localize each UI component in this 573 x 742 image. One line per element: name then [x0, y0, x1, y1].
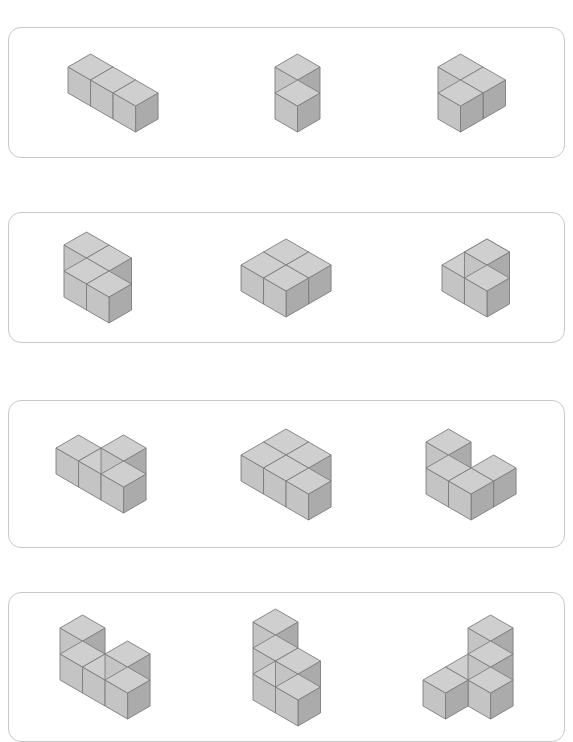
row-of-three-with-tower[interactable] — [54, 433, 148, 515]
tower-with-foot[interactable] — [421, 613, 515, 721]
figure-panel-4 — [8, 592, 565, 742]
figure-row — [9, 401, 564, 547]
figure-panel-1 — [8, 27, 565, 158]
figure-panel-2 — [8, 212, 565, 343]
cube-structure-svg — [239, 237, 333, 319]
cube-structure-svg — [58, 613, 152, 721]
cube-structure-svg — [273, 52, 322, 134]
figure-panel-3 — [8, 400, 565, 548]
cube-structure-svg — [421, 613, 515, 721]
cube-group — [56, 435, 146, 513]
figure-row — [9, 213, 564, 342]
cube-structure-svg — [424, 427, 518, 522]
cube-group — [426, 429, 516, 520]
cube-group — [438, 54, 506, 132]
cube-group — [68, 54, 158, 132]
cube-group — [423, 615, 513, 719]
diagonal-step-four[interactable] — [424, 427, 518, 522]
cube-structure-svg — [440, 237, 512, 319]
cube-structure-svg — [251, 607, 323, 728]
cube-group — [253, 609, 321, 726]
cube-group — [60, 615, 150, 719]
stepped-corner-four[interactable] — [440, 237, 512, 319]
cube-group — [241, 239, 331, 317]
cube-group — [64, 232, 132, 323]
figure-row — [9, 28, 564, 157]
vertical-stack-of-two[interactable] — [273, 52, 322, 134]
figure-row — [9, 593, 564, 741]
cube-group — [275, 54, 320, 132]
cube-group — [241, 429, 331, 520]
stair-step-five[interactable] — [251, 607, 323, 728]
flat-t-tetromino[interactable] — [239, 237, 333, 319]
flat-s-tetromino[interactable] — [62, 230, 134, 325]
cube-structure-svg — [54, 433, 148, 515]
cube-group — [442, 239, 510, 317]
cube-structure-svg — [66, 52, 160, 134]
row-of-three-cubes[interactable] — [66, 52, 160, 134]
flat-l-tromino[interactable] — [436, 52, 508, 134]
cube-structure-svg — [62, 230, 134, 325]
u-shape-five[interactable] — [58, 613, 152, 721]
cube-structure-svg — [436, 52, 508, 134]
flat-p-pentomino[interactable] — [239, 427, 333, 522]
cube-structure-svg — [239, 427, 333, 522]
